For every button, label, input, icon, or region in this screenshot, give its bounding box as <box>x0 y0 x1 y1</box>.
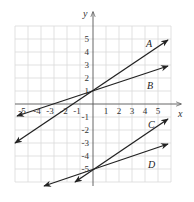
svg-text:-3: -3 <box>82 138 90 148</box>
svg-text:-2: -2 <box>82 125 90 135</box>
svg-text:-4: -4 <box>82 151 90 161</box>
line-c-label: C <box>148 119 155 130</box>
svg-text:-1: -1 <box>73 106 81 116</box>
svg-text:2: 2 <box>117 106 122 116</box>
line-d-label: D <box>147 159 156 170</box>
svg-text:5: 5 <box>156 106 161 116</box>
line-b-label: B <box>147 80 153 91</box>
svg-text:2: 2 <box>85 73 90 83</box>
svg-text:-4: -4 <box>33 106 41 116</box>
svg-text:4: 4 <box>85 47 90 57</box>
svg-text:-1: -1 <box>82 112 90 122</box>
svg-text:3: 3 <box>85 60 90 70</box>
svg-text:3: 3 <box>130 106 135 116</box>
svg-text:-3: -3 <box>46 106 54 116</box>
coordinate-plane: x y -5 -4 -3 -2 -1 1 2 3 4 5 5 4 3 2 1 -… <box>0 0 194 202</box>
svg-text:5: 5 <box>85 34 90 44</box>
svg-text:4: 4 <box>143 106 148 116</box>
y-axis-label: y <box>82 8 88 19</box>
x-tick-labels: -5 -4 -3 -2 -1 1 2 3 4 5 <box>18 106 161 116</box>
svg-text:1: 1 <box>104 106 109 116</box>
x-axis-label: x <box>177 108 183 119</box>
line-a-label: A <box>145 38 153 49</box>
